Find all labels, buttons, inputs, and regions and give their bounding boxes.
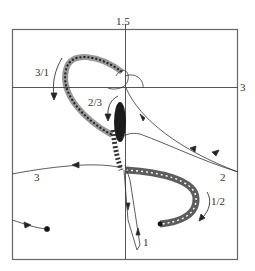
- axis-label-right: 3: [240, 82, 246, 93]
- rotation-arrows: [51, 58, 210, 221]
- curve-label-3: 3: [34, 172, 40, 183]
- endpoint-marker: [44, 226, 49, 231]
- arrow-3: [72, 162, 79, 168]
- arrow-up: [136, 228, 140, 235]
- curve-label-2-3: 2/3: [88, 97, 102, 108]
- diagram-canvas: [0, 0, 255, 271]
- trajectory-3: [12, 162, 122, 174]
- endpoint-marker-1-2: [158, 222, 163, 227]
- curve-label-3-1: 3/1: [35, 67, 49, 78]
- trajectory-1: [124, 165, 140, 250]
- arrow-2b: [212, 150, 219, 156]
- axis-label-top: 1.5: [116, 16, 130, 27]
- trajectory-2: [122, 88, 238, 172]
- spiral-1-2: [126, 170, 196, 226]
- arrow-lower-left: [24, 222, 31, 228]
- curve-label-1: 1: [143, 237, 149, 248]
- curve-label-2: 2: [220, 172, 226, 183]
- curve-label-1-2: 1/2: [211, 196, 225, 207]
- trajectory-lower-left: [12, 220, 50, 232]
- arrow-down: [126, 203, 130, 210]
- phase-diagram: 1.5 3 3/1 2/3 1/2 1 2 3: [0, 0, 255, 271]
